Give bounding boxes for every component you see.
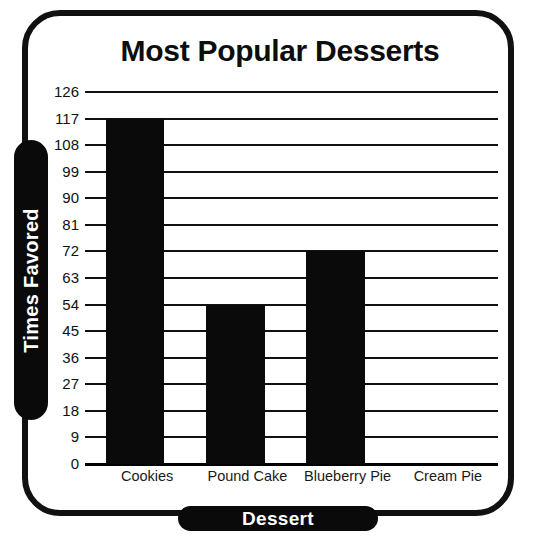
x-axis-title-label: Dessert <box>242 508 314 530</box>
x-axis-label-cookies: Cookies <box>97 468 197 484</box>
y-axis-tick-label: 0 <box>33 456 79 471</box>
y-axis-tick-label: 117 <box>33 111 79 126</box>
x-axis-label-blueberry-pie: Blueberry Pie <box>298 468 398 484</box>
chart-screenshot: Most Popular Desserts 091827364554637281… <box>0 0 533 536</box>
y-axis-tick-label: 9 <box>33 429 79 444</box>
bar-cookies <box>106 119 165 464</box>
x-axis-label-pound-cake: Pound Cake <box>197 468 297 484</box>
x-axis-title-pill: Dessert <box>178 506 378 531</box>
y-axis-title-label: Times Favored <box>20 208 43 353</box>
chart-plot-area <box>97 92 498 464</box>
x-axis-category-labels: CookiesPound CakeBlueberry PieCream Pie <box>85 468 500 492</box>
bar-blueberry-pie <box>306 251 365 464</box>
x-axis-label-cream-pie: Cream Pie <box>398 468 498 484</box>
bar-pound-cake <box>206 305 265 464</box>
chart-title: Most Popular Desserts <box>60 34 500 68</box>
y-axis-tick-label: 126 <box>33 84 79 99</box>
y-axis-title-pill: Times Favored <box>14 140 48 420</box>
